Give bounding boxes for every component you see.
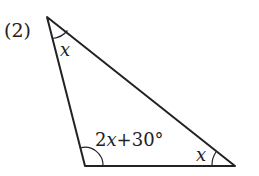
- triangle-diagram: (2) x 2x+30° x: [0, 0, 259, 176]
- angle-label-top: x: [60, 39, 70, 60]
- angle-label-bottom-right: x: [196, 144, 206, 165]
- angle-arc-bottom-right: [212, 152, 216, 166]
- problem-number: (2): [4, 19, 31, 41]
- angle-label-bottom-left: 2x+30°: [95, 129, 164, 150]
